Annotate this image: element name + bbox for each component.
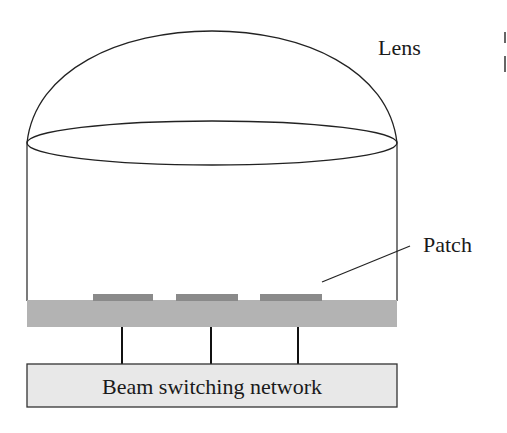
lens-label: Lens [378, 35, 421, 60]
patch-element-3 [260, 294, 322, 301]
patch-element-1 [93, 294, 153, 301]
patch-element-2 [176, 294, 238, 301]
lens-antenna-diagram: Beam switching network Lens Patch [0, 0, 507, 433]
network-label: Beam switching network [102, 374, 322, 399]
patch-label: Patch [423, 232, 472, 257]
lens-base-ellipse [27, 121, 397, 165]
lens-dome [27, 31, 397, 143]
substrate [27, 300, 397, 327]
